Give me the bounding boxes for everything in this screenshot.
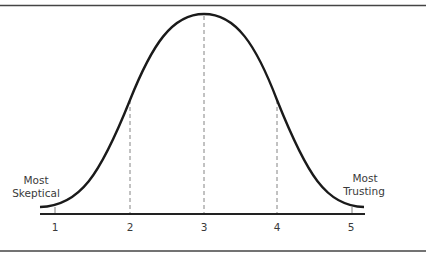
tick-label-4: 4 — [274, 221, 281, 233]
tick-label-5: 5 — [348, 221, 355, 233]
annotation-most-skeptical-line1: Most — [23, 174, 48, 186]
annotation-most-trusting-line2: Trusting — [342, 185, 385, 197]
annotation-most-trusting-line1: Most — [352, 172, 377, 184]
tick-label-1: 1 — [52, 221, 59, 233]
bell-curve-diagram: 1 2 3 4 5 Most Skeptical Most Trusting — [0, 0, 426, 254]
bell-curve — [40, 14, 364, 207]
annotation-most-skeptical-line2: Skeptical — [12, 187, 60, 199]
tick-label-3: 3 — [201, 221, 208, 233]
tick-label-2: 2 — [127, 221, 134, 233]
